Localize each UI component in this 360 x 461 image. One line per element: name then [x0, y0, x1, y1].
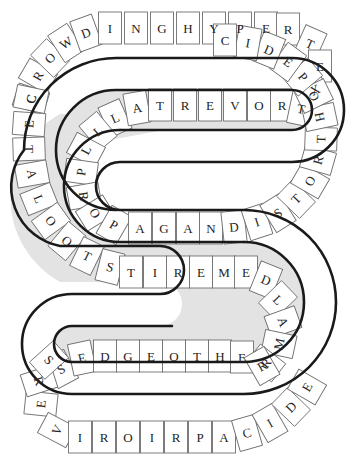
puzzle-canvas: CROWDINGHYPERTEXLATREVORTLLPROPAGANDISTO… — [0, 0, 360, 461]
letter-glyph: P — [196, 430, 203, 445]
letter-glyph: E — [197, 265, 205, 280]
letter-glyph: E — [238, 350, 246, 365]
letter-glyph: V — [230, 98, 240, 113]
letter-glyph: A — [135, 221, 145, 236]
letter-glyph: E — [316, 59, 324, 74]
letter-glyph: A — [219, 430, 229, 445]
letter-glyph: I — [150, 430, 154, 445]
letter-glyph: E — [33, 399, 49, 409]
letter-cell-grid — [12, 12, 338, 453]
word-snake-svg: CROWDINGHYPERTEXLATREVORTLLPROPAGANDISTO… — [0, 0, 360, 461]
letter-glyph: T — [156, 98, 164, 113]
letter-glyph: D — [229, 219, 240, 235]
letter-glyph: E — [21, 119, 37, 128]
letter-glyph: R — [172, 430, 181, 445]
letter-glyph: G — [157, 21, 166, 36]
letter-glyph: T — [127, 265, 135, 280]
letter-glyph: R — [174, 265, 183, 280]
letter-glyph: N — [131, 21, 141, 36]
letter-glyph: G — [159, 221, 168, 236]
letter-glyph: E — [206, 98, 214, 113]
letter-glyph: E — [147, 349, 155, 364]
letter-glyph: R — [284, 22, 293, 37]
letter-glyph: N — [206, 221, 216, 236]
letter-glyph: O — [169, 349, 178, 364]
letter-glyph: H — [183, 21, 192, 36]
letter-glyph: I — [153, 265, 157, 280]
letter-glyph: T — [193, 349, 201, 364]
letter-glyph: O — [254, 98, 263, 113]
letter-glyph: I — [108, 21, 112, 36]
letter-glyph: H — [215, 349, 224, 364]
letter-glyph: G — [123, 349, 132, 364]
letter-glyph: D — [100, 349, 109, 364]
letter-glyph: M — [218, 265, 230, 280]
letter-glyph: R — [100, 430, 109, 445]
letter-glyph: I — [78, 430, 82, 445]
letter-glyph: T — [21, 145, 36, 154]
letter-glyph: T — [313, 135, 328, 144]
letter-glyph: P — [236, 21, 243, 36]
letter-glyph: O — [123, 430, 132, 445]
letter-glyph: E — [242, 265, 250, 280]
letter-glyph: R — [181, 98, 190, 113]
letter-glyph: Y — [209, 21, 219, 36]
letter-glyph: A — [183, 221, 193, 236]
letter-glyph: C — [221, 33, 230, 48]
letter-glyph: E — [262, 21, 270, 36]
letter-glyph: R — [278, 98, 287, 113]
